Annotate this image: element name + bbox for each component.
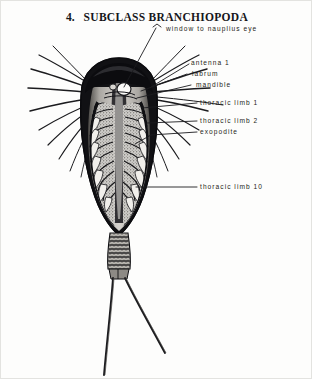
label-antenna-1: antenna 1 <box>191 60 230 67</box>
label-labrum: labrum <box>192 71 218 78</box>
label-thoracic-limb-1: thoracic limb 1 <box>200 100 258 107</box>
label-exopodite: exopodite <box>200 129 238 136</box>
branchiopod-illustration <box>1 1 311 378</box>
label-thoracic-limb-10: thoracic limb 10 <box>200 184 263 191</box>
label-thoracic-limb-2: thoracic limb 2 <box>200 118 258 125</box>
label-mandible: mandible <box>196 82 231 89</box>
figure-plate: 4.SUBCLASS BRANCHIOPODA window to naupli… <box>0 0 312 379</box>
label-window-to-nauplius-eye: window to nauplius eye <box>166 26 257 33</box>
